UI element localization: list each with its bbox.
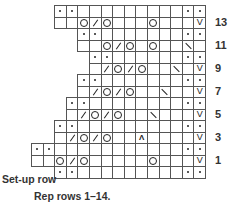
- row-number-3: 3: [215, 131, 221, 143]
- row-number-13: 13: [215, 16, 227, 28]
- chart-cell-purl-dot-icon: [193, 166, 206, 179]
- row-number-7: 7: [215, 85, 221, 97]
- repeat-note: Rep rows 1–14.: [34, 190, 110, 202]
- row-number-9: 9: [215, 62, 221, 74]
- setup-row-label: Set-up row: [2, 173, 56, 185]
- row-number-5: 5: [215, 108, 221, 120]
- row-number-11: 11: [215, 39, 227, 51]
- row-number-1: 1: [215, 154, 221, 166]
